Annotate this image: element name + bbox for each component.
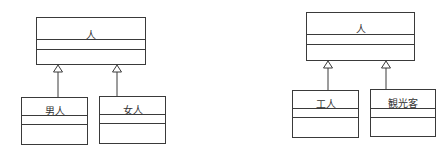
inheritance-arrow [382,61,391,90]
attributes-divider [22,115,87,116]
attributes-divider [293,108,358,109]
class-box-woman: 女人 [99,96,166,144]
methods-divider [37,49,145,50]
class-box-man: 男人 [21,97,88,145]
methods-divider [293,117,358,118]
class-box-tourist: 観光客 [370,89,436,137]
class-box-person: 人 [306,12,415,61]
methods-divider [22,124,87,125]
attributes-divider [100,114,165,115]
class-box-person: 人 [36,17,146,65]
methods-divider [307,44,414,45]
methods-divider [371,117,435,118]
inheritance-arrow [54,65,63,97]
inheritance-arrow [113,65,122,96]
attributes-divider [371,108,435,109]
attributes-divider [307,34,414,35]
attributes-divider [37,39,145,40]
class-box-worker: 工人 [292,90,359,138]
inheritance-arrow [324,61,333,90]
methods-divider [100,123,165,124]
